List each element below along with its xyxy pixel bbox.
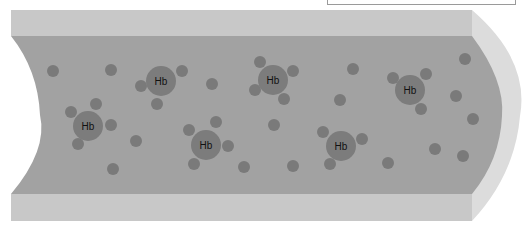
hemoglobin-label: Hb [155,76,168,87]
oxygen-particle [382,157,394,169]
vessel-wall-top [11,10,472,36]
hemoglobin-label: Hb [267,75,280,86]
oxygen-particle [238,161,250,173]
bound-oxygen [188,158,200,170]
bound-oxygen [151,98,163,110]
oxygen-particle [47,65,59,77]
oxygen-particle [334,94,346,106]
oxygen-particle [206,78,218,90]
oxygen-particle [467,113,479,125]
hemoglobin-label: Hb [335,141,348,152]
hemoglobin-label: Hb [82,121,95,132]
bound-oxygen [415,103,427,115]
bound-oxygen [183,124,195,136]
bound-oxygen [90,98,102,110]
oxygen-particle [130,135,142,147]
oxygen-particle [107,163,119,175]
bound-oxygen [105,119,117,131]
oxygen-particle [459,53,471,65]
bound-oxygen [356,133,368,145]
bound-oxygen [420,68,432,80]
oxygen-particle [268,119,280,131]
oxygen-particle [347,63,359,75]
vessel-wall-bottom [11,194,472,221]
bound-oxygen [65,106,77,118]
oxygen-particle [457,150,469,162]
bound-oxygen [287,65,299,77]
bound-oxygen [278,93,290,105]
bound-oxygen [222,140,234,152]
bound-oxygen [254,56,266,68]
bound-oxygen [324,158,336,170]
bound-oxygen [210,116,222,128]
bound-oxygen [135,80,147,92]
bound-oxygen [176,65,188,77]
bound-oxygen [317,126,329,138]
oxygen-particle [105,64,117,76]
hemoglobin-label: Hb [404,85,417,96]
oxygen-particle [287,160,299,172]
hemoglobin-label: Hb [200,140,213,151]
oxygen-particle [429,143,441,155]
oxygen-particle [450,90,462,102]
blood-vessel-diagram: HbHbHbHbHbHb [0,0,522,233]
